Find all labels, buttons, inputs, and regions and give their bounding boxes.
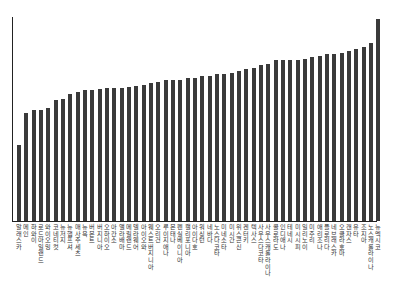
bar bbox=[149, 83, 153, 221]
bar bbox=[112, 88, 116, 221]
bar bbox=[369, 43, 373, 221]
bar bbox=[120, 88, 124, 221]
bar bbox=[24, 113, 28, 221]
bar bbox=[362, 47, 366, 221]
bar bbox=[68, 94, 72, 221]
bar bbox=[98, 89, 102, 221]
bar bbox=[252, 68, 256, 221]
y-axis-line bbox=[12, 17, 13, 222]
x-tick-label: 뉴멕시코 bbox=[374, 224, 382, 250]
x-axis-line bbox=[12, 221, 377, 222]
bar bbox=[164, 80, 168, 221]
bar bbox=[193, 78, 197, 221]
bar bbox=[288, 60, 292, 221]
bar bbox=[281, 60, 285, 221]
bar bbox=[208, 76, 212, 221]
bar bbox=[318, 56, 322, 221]
bar bbox=[61, 99, 65, 221]
bar bbox=[39, 110, 43, 221]
bar bbox=[332, 54, 336, 221]
bar bbox=[325, 54, 329, 221]
bar bbox=[54, 100, 58, 221]
bar-chart: 알래스카메인하와이로드아일랜드와이오밍코네티컷뉴저지뉴햄프셔매사추세츠뉴욕버몬트… bbox=[0, 0, 396, 285]
bar bbox=[90, 90, 94, 221]
bar bbox=[46, 108, 50, 221]
bar bbox=[83, 90, 87, 221]
bar bbox=[259, 65, 263, 221]
bar bbox=[32, 110, 36, 221]
bar bbox=[200, 76, 204, 221]
bar bbox=[105, 88, 109, 221]
bar bbox=[230, 73, 234, 221]
bar bbox=[17, 145, 21, 221]
bar bbox=[76, 92, 80, 221]
bar bbox=[178, 80, 182, 221]
bar bbox=[215, 74, 219, 221]
bar bbox=[340, 53, 344, 221]
bar bbox=[134, 86, 138, 221]
bar bbox=[237, 71, 241, 221]
bar bbox=[266, 64, 270, 221]
bar bbox=[296, 60, 300, 221]
bar bbox=[156, 82, 160, 221]
bar bbox=[171, 80, 175, 221]
bar bbox=[142, 85, 146, 221]
bar bbox=[127, 87, 131, 221]
bar bbox=[347, 51, 351, 221]
bar bbox=[274, 60, 278, 221]
bar bbox=[222, 74, 226, 221]
bar bbox=[310, 57, 314, 221]
bar bbox=[303, 59, 307, 221]
bar bbox=[244, 69, 248, 221]
bar bbox=[376, 19, 380, 221]
bar bbox=[186, 78, 190, 221]
bar bbox=[354, 49, 358, 221]
